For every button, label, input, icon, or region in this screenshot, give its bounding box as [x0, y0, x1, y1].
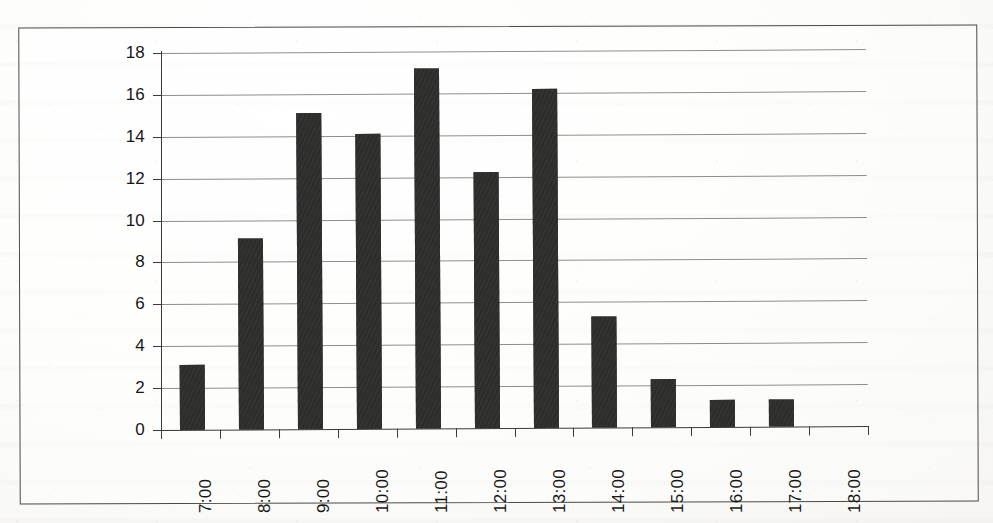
x-tick-mark	[573, 428, 574, 437]
x-tick-mark	[220, 430, 221, 439]
y-axis-label: 8	[101, 253, 145, 270]
bar	[592, 316, 618, 427]
y-axis-label: 16	[101, 86, 145, 103]
bar	[414, 68, 441, 428]
x-tick-mark	[691, 427, 692, 436]
x-axis-labels-group: 7:008:009:0010:0011:0012:0013:0014:0015:…	[161, 443, 870, 518]
y-axis-label: 2	[101, 379, 145, 396]
bar	[710, 400, 735, 427]
y-tick-mark	[153, 388, 162, 389]
x-tick-mark	[279, 429, 280, 438]
x-tick-mark	[161, 430, 162, 439]
y-axis-labels-group: 024681012141618	[97, 0, 145, 523]
gridline	[160, 217, 867, 222]
x-axis-label: 9:00	[315, 479, 332, 513]
x-tick-mark	[809, 426, 810, 435]
x-axis-label: 10:00	[374, 469, 391, 513]
x-axis-label: 18:00	[846, 469, 863, 513]
y-tick-mark	[153, 53, 162, 54]
y-axis-label: 14	[101, 128, 145, 145]
y-axis-label: 18	[101, 44, 145, 61]
x-tick-mark	[868, 426, 869, 435]
gridline	[160, 300, 867, 305]
y-tick-mark	[153, 95, 162, 96]
value-axis-line	[161, 51, 162, 432]
bar	[473, 173, 499, 429]
x-axis-label: 7:00	[197, 479, 214, 513]
scanned-page: 024681012141618 7:008:009:0010:0011:0012…	[0, 0, 993, 523]
y-axis-label: 12	[101, 170, 145, 187]
y-axis-label: 4	[101, 337, 145, 354]
x-tick-mark	[750, 427, 751, 436]
x-axis-label: 12:00	[492, 469, 509, 513]
bar	[532, 88, 559, 427]
y-axis-label: 0	[101, 421, 145, 438]
bar	[355, 133, 382, 428]
y-tick-mark	[153, 179, 162, 180]
x-tick-mark	[632, 427, 633, 436]
x-axis-label: 13:00	[551, 469, 568, 513]
bar	[651, 379, 676, 427]
x-axis-label: 16:00	[728, 469, 745, 513]
x-tick-mark	[456, 428, 457, 437]
x-tick-mark	[338, 429, 339, 438]
y-axis-label: 10	[101, 212, 145, 229]
gridline	[160, 258, 867, 263]
y-tick-mark	[153, 346, 162, 347]
y-tick-mark	[153, 221, 162, 222]
x-axis-label: 14:00	[610, 469, 627, 513]
gridline	[161, 384, 868, 389]
y-tick-mark	[153, 137, 162, 138]
gridline	[159, 133, 866, 138]
y-tick-mark	[153, 304, 162, 305]
bar	[769, 399, 794, 426]
y-axis-label: 6	[101, 295, 145, 312]
x-axis-label: 11:00	[433, 470, 450, 513]
gridline	[159, 91, 866, 96]
bar	[296, 113, 323, 429]
bar	[238, 239, 264, 430]
x-axis-label: 17:00	[787, 469, 804, 513]
x-axis-label: 8:00	[256, 479, 273, 513]
plot-area	[159, 49, 868, 430]
y-tick-mark	[153, 262, 162, 263]
gridline	[160, 175, 867, 180]
bar	[180, 365, 205, 430]
x-tick-mark	[514, 428, 515, 437]
x-tick-mark	[397, 429, 398, 438]
x-axis-label: 15:00	[669, 469, 686, 513]
gridline	[161, 342, 868, 347]
